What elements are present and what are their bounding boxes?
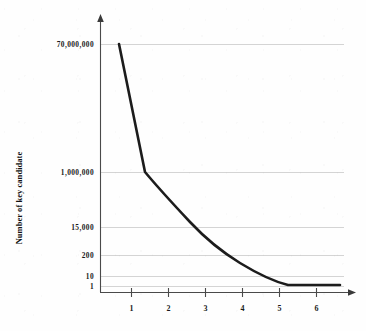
x-tick-label-3: 4 bbox=[241, 304, 245, 313]
chart-figure: 70,000,000 1,000,000 15,000 200 10 1 1 2… bbox=[0, 0, 366, 331]
x-tick-label-5: 6 bbox=[315, 304, 319, 313]
y-tick-label-4: 10 bbox=[86, 272, 94, 281]
data-series-line bbox=[119, 44, 340, 285]
chart-canvas: 70,000,000 1,000,000 15,000 200 10 1 1 2… bbox=[0, 0, 366, 331]
x-axis-arrowhead-icon bbox=[348, 289, 356, 296]
y-axis bbox=[97, 14, 104, 292]
x-tick-label-4: 5 bbox=[278, 304, 282, 313]
x-axis bbox=[100, 289, 356, 296]
x-tick-label-2: 3 bbox=[204, 304, 208, 313]
x-tick-label-0: 1 bbox=[130, 304, 134, 313]
y-axis-arrowhead-icon bbox=[97, 14, 104, 22]
y-axis-title: Number of key candidate bbox=[15, 152, 24, 245]
y-tick-label-5: 1 bbox=[90, 282, 94, 291]
x-tick-label-1: 2 bbox=[167, 304, 171, 313]
y-tick-label-1: 1,000,000 bbox=[61, 168, 94, 177]
y-tick-label-2: 15,000 bbox=[71, 223, 94, 232]
y-tick-label-0: 70,000,000 bbox=[57, 40, 94, 49]
y-tick-label-3: 200 bbox=[82, 251, 94, 260]
